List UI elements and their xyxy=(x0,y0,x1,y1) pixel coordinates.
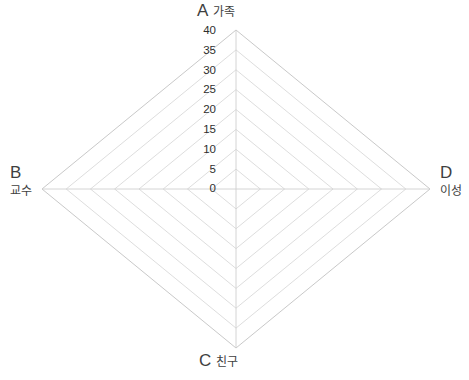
radial-tick-15: 15 xyxy=(192,124,216,136)
radial-tick-25: 25 xyxy=(192,84,216,96)
radial-tick-10: 10 xyxy=(192,144,216,156)
axis-label-c-name: 친구 xyxy=(216,356,238,368)
radar-chart: 40 35 30 25 20 15 10 5 0 A 가족 B 교수 C 친구 … xyxy=(0,0,469,380)
axis-label-b: B 교수 xyxy=(10,164,32,197)
radial-tick-20: 20 xyxy=(192,104,216,116)
axis-label-a-letter: A xyxy=(197,2,208,19)
radial-tick-5: 5 xyxy=(192,164,216,176)
axis-label-d-name: 이성 xyxy=(440,185,462,197)
axis-label-b-letter: B xyxy=(10,164,21,181)
radar-axis-spokes xyxy=(42,30,430,348)
axis-label-a: A 가족 xyxy=(197,2,235,19)
radial-tick-30: 30 xyxy=(192,65,216,77)
axis-label-d: D 이성 xyxy=(440,164,462,197)
axis-label-c-letter: C xyxy=(199,352,211,369)
axis-label-c: C 친구 xyxy=(199,352,238,369)
radial-tick-40: 40 xyxy=(192,25,216,37)
radial-tick-35: 35 xyxy=(192,45,216,57)
axis-label-b-name: 교수 xyxy=(10,185,32,197)
axis-label-a-name: 가족 xyxy=(213,6,235,18)
radar-grid-svg xyxy=(0,0,469,380)
radial-tick-0: 0 xyxy=(192,183,216,195)
axis-label-d-letter: D xyxy=(440,164,452,181)
